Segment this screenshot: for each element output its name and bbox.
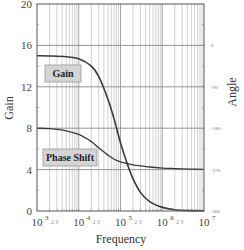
- y-tick-label: 20: [21, 0, 33, 10]
- x-axis-ticks: 1032 31042 31052 31062 3107: [32, 209, 217, 228]
- x-tick-label: 1052 3: [115, 214, 142, 228]
- bode-chart: 048121620 0-90-180-270-360 1032 31042 31…: [0, 0, 244, 250]
- svg-text:4: 4: [87, 214, 91, 222]
- svg-text:10: 10: [115, 216, 127, 228]
- svg-text:10: 10: [32, 216, 44, 228]
- y-tick-label: 16: [21, 39, 33, 51]
- svg-text:10: 10: [157, 216, 169, 228]
- y2-tick-label: -270: [211, 168, 221, 173]
- svg-text:3: 3: [45, 214, 49, 222]
- svg-text:2 3: 2 3: [135, 219, 142, 225]
- y-axis-label: Gain: [2, 96, 16, 119]
- x-tick-label: 1042 3: [73, 214, 100, 228]
- x-tick-label: 1062 3: [157, 214, 184, 228]
- svg-text:7: 7: [212, 214, 216, 222]
- y2-tick-label: 0: [211, 43, 214, 48]
- svg-text:2 3: 2 3: [176, 219, 183, 225]
- svg-text:5: 5: [129, 214, 133, 222]
- svg-text:10: 10: [73, 216, 85, 228]
- y-tick-label: 4: [27, 164, 33, 176]
- y-tick-label: 12: [21, 81, 32, 93]
- left-axis-ticks: 048121620: [21, 0, 39, 217]
- y2-axis-label: Angle: [225, 77, 239, 106]
- svg-text:2 3: 2 3: [93, 219, 100, 225]
- gain-label: Gain: [52, 68, 74, 79]
- svg-text:2 3: 2 3: [51, 219, 58, 225]
- y2-tick-label: -90: [211, 85, 218, 90]
- phase-shift-label: Phase Shift: [46, 152, 95, 163]
- x-axis-label: Frequency: [96, 232, 147, 246]
- svg-text:6: 6: [170, 214, 174, 222]
- x-tick-label: 1032 3: [32, 214, 59, 228]
- minor-gridlines: [50, 4, 203, 211]
- x-tick-label: 107: [199, 214, 217, 228]
- y-tick-label: 8: [27, 122, 33, 134]
- right-axis-ticks: 0-90-180-270-360: [202, 25, 221, 214]
- phase-shift-label-box: Phase Shift: [43, 149, 97, 166]
- svg-text:10: 10: [199, 216, 211, 228]
- gain-label-box: Gain: [45, 65, 81, 82]
- y2-tick-label: -180: [211, 126, 221, 131]
